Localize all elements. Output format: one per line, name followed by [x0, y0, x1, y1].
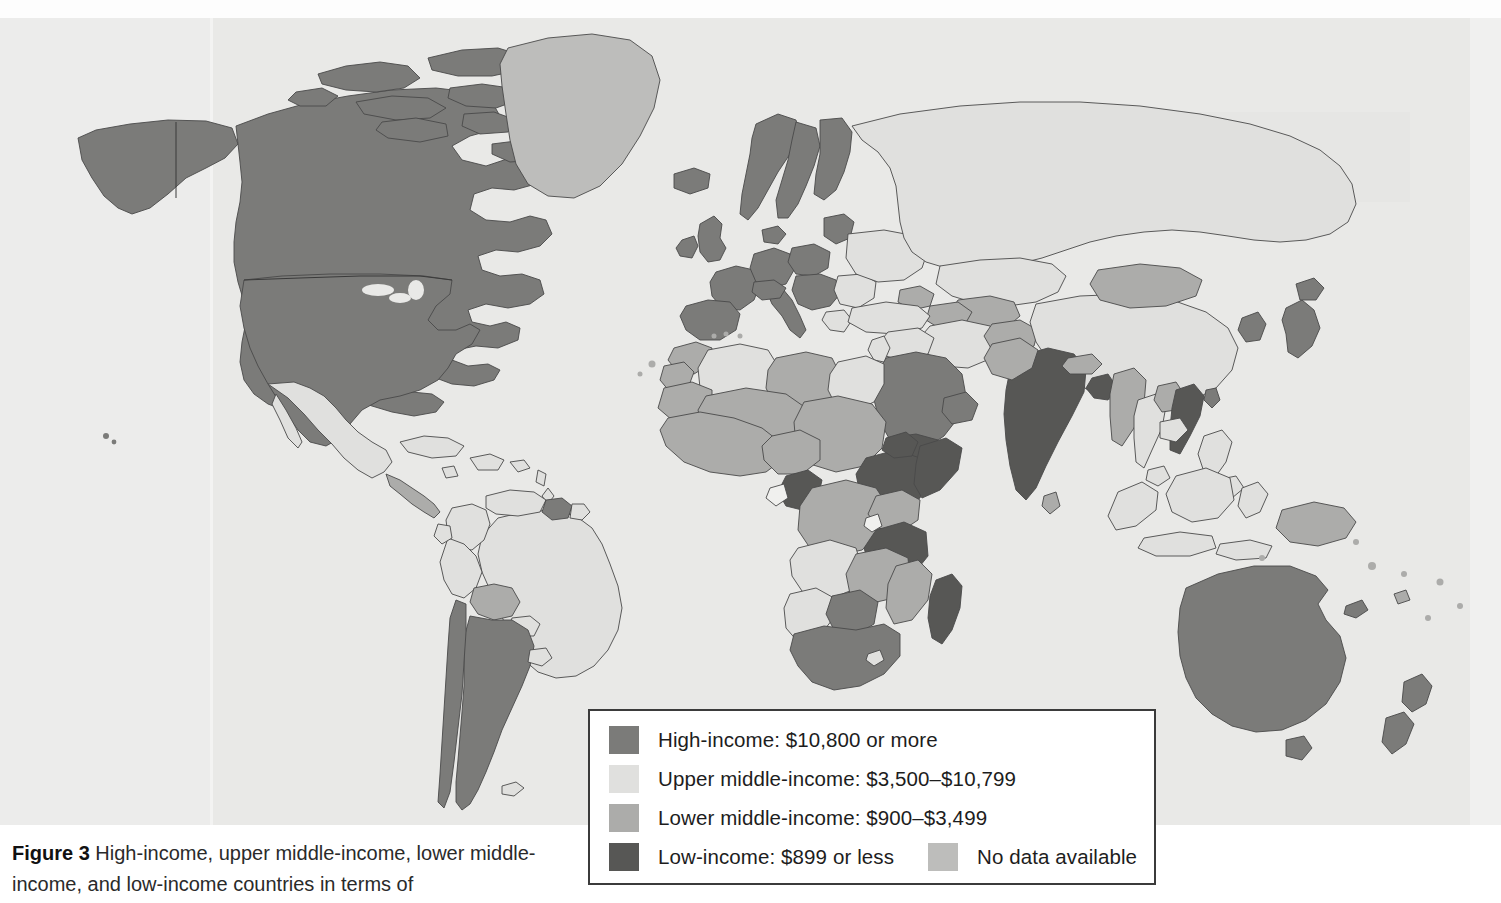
legend-item-high-income: High-income: $10,800 or more [609, 725, 938, 755]
legend-swatch-upper-middle-income [609, 765, 639, 793]
region-new-zealand-north [1402, 674, 1432, 712]
region-finland [814, 118, 852, 200]
legend-swatch-no-data [928, 843, 958, 871]
legend-label-high-income: High-income: $10,800 or more [658, 728, 938, 752]
legend-swatch-high-income [609, 726, 639, 754]
legend-swatch-lower-middle-income [609, 804, 639, 832]
region-sri-lanka [1042, 492, 1060, 514]
region-tasmania [1286, 736, 1312, 760]
legend-item-lower-middle-income: Lower middle-income: $900–$3,499 [609, 803, 987, 833]
region-borneo [1166, 468, 1234, 522]
legend-label-no-data: No data available [977, 845, 1137, 869]
region-mongolia [1090, 264, 1202, 308]
region-new-zealand-south [1382, 712, 1414, 754]
scan-page-top-margin [0, 0, 1501, 18]
legend-item-no-data: No data available [928, 842, 1137, 872]
region-japan [1282, 300, 1320, 358]
region-iceland [674, 168, 710, 194]
region-suriname [570, 504, 590, 520]
region-sumatra [1108, 482, 1158, 530]
map-legend: High-income: $10,800 or more Upper middl… [588, 709, 1156, 885]
region-united-kingdom [698, 216, 726, 262]
scan-page-right-margin [1470, 18, 1501, 825]
region-taiwan [1204, 388, 1220, 408]
legend-label-upper-middle-income: Upper middle-income: $3,500–$10,799 [658, 767, 1016, 791]
region-balkans-hungary [792, 274, 840, 310]
legend-label-low-income: Low-income: $899 or less [658, 845, 894, 869]
legend-item-upper-middle-income: Upper middle-income: $3,500–$10,799 [609, 764, 1016, 794]
region-madagascar [928, 574, 962, 644]
legend-label-lower-middle-income: Lower middle-income: $900–$3,499 [658, 806, 987, 830]
region-sulawesi [1238, 482, 1268, 518]
region-spain-portugal [680, 300, 740, 340]
region-argentina [456, 616, 534, 810]
region-somalia [914, 438, 962, 498]
region-greenland [500, 34, 660, 198]
region-malaysia [1146, 466, 1170, 486]
region-poland [788, 244, 830, 276]
figure-page: High-income: $10,800 or more Upper middl… [0, 0, 1501, 903]
region-korea [1238, 312, 1266, 342]
figure-caption-text: High-income, upper middle-income, lower … [12, 842, 536, 895]
figure-caption: Figure 3 High-income, upper middle-incom… [12, 838, 572, 900]
region-new-caledonia [1344, 600, 1368, 618]
region-alaska [78, 120, 238, 214]
region-australia [1178, 566, 1346, 732]
region-denmark [762, 226, 786, 244]
region-papua-new-guinea [1276, 502, 1356, 546]
region-central-america [386, 474, 440, 518]
legend-swatch-low-income [609, 843, 639, 871]
region-ireland [676, 236, 698, 258]
region-falkland-islands [502, 782, 524, 796]
region-russia [852, 102, 1356, 270]
region-hawaii [103, 433, 116, 444]
region-bolivia [470, 584, 520, 620]
region-south-africa [790, 624, 900, 690]
world-map [0, 18, 1501, 825]
region-fiji [1394, 590, 1410, 604]
region-venezuela [486, 490, 546, 516]
legend-item-low-income: Low-income: $899 or less [609, 842, 894, 872]
region-greece [822, 310, 852, 332]
region-java [1138, 532, 1216, 556]
figure-number: Figure 3 [12, 842, 90, 864]
region-hokkaido [1296, 278, 1324, 300]
